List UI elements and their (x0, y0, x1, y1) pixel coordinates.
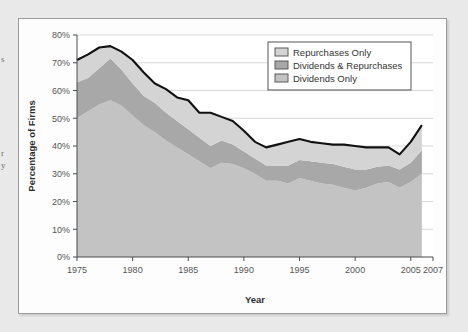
x-tick-label: 2007 (423, 265, 443, 275)
y-tick-label: 0% (57, 252, 70, 262)
y-tick-label: 80% (52, 30, 70, 40)
y-tick-label: 60% (52, 86, 70, 96)
x-tick-label: 1980 (123, 265, 143, 275)
y-tick-label: 50% (52, 114, 70, 124)
y-tick-label: 70% (52, 58, 70, 68)
area-chart: 0%10%20%30%40%50%60%70%80%19751980198519… (19, 19, 446, 313)
legend-label: Repurchases Only (293, 47, 371, 58)
x-tick-label: 2005 (401, 265, 421, 275)
x-tick-label: 1990 (234, 265, 254, 275)
y-tick-label: 30% (52, 169, 70, 179)
x-tick-label: 2000 (345, 265, 365, 275)
document-page: s r y 0%10%20%30%40%50%60%70%80%19751980… (0, 0, 468, 332)
figure-container: 0%10%20%30%40%50%60%70%80%19751980198519… (18, 18, 447, 314)
legend-label: Dividends & Repurchases (293, 60, 403, 71)
legend-swatch (275, 74, 288, 82)
x-tick-label: 1995 (289, 265, 309, 275)
y-axis-ticks (73, 35, 77, 257)
legend-swatch (275, 48, 288, 56)
legend-label: Dividends Only (293, 73, 357, 84)
x-tick-label: 1985 (178, 265, 198, 275)
y-tick-label: 10% (52, 225, 70, 235)
page-text-fragment-2: r (1, 148, 4, 158)
y-tick-label: 40% (52, 141, 70, 151)
chart-legend: Repurchases OnlyDividends & RepurchasesD… (268, 42, 411, 90)
page-text-fragment-3: y (1, 160, 6, 170)
page-text-fragment-1: s (1, 54, 5, 64)
legend-swatch (275, 61, 288, 69)
x-axis-ticks (77, 257, 433, 261)
x-tick-label: 1975 (67, 265, 87, 275)
y-tick-label: 20% (52, 197, 70, 207)
x-axis-title: Year (245, 294, 265, 305)
y-axis-title: Percentage of Firms (26, 100, 37, 191)
